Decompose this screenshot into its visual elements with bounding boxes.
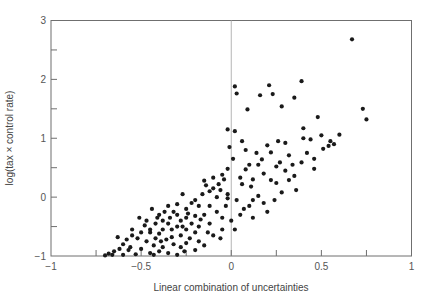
data-point [215,195,219,199]
data-point [144,239,148,243]
data-point [144,219,148,223]
y-tick-label: 2 [40,74,46,85]
data-point [328,139,332,143]
data-point [364,117,368,121]
data-point [299,79,303,83]
data-point [153,236,157,240]
data-point [218,236,222,240]
data-point [242,207,246,211]
data-point [161,245,165,249]
y-tick-label: 0 [40,192,46,203]
data-point [197,239,201,243]
data-point [262,171,266,175]
data-point [182,249,186,253]
data-point [235,198,239,202]
data-point [179,245,183,249]
data-point [292,174,296,178]
data-point [193,230,197,234]
data-point [269,178,273,182]
data-point [321,147,325,151]
data-point [350,37,354,41]
data-point [247,204,251,208]
y-tick-label: 3 [40,15,46,26]
data-point [175,224,179,228]
data-point [130,233,134,237]
data-point [121,242,125,246]
data-point [152,253,156,257]
data-point [233,227,237,231]
data-point [125,237,129,241]
scatter-chart: −1−0.500.51 −10123 Linear combination of… [0,0,431,302]
data-point [294,188,298,192]
data-point [208,204,212,208]
data-point [121,253,125,257]
data-point [166,204,170,208]
data-point [134,252,138,256]
data-point [184,227,188,231]
data-point [222,177,226,181]
data-point [312,157,316,161]
data-point [226,167,230,171]
data-point [175,213,179,217]
data-point [215,210,219,214]
data-point [164,237,168,241]
data-point [168,216,172,220]
data-point [202,213,206,217]
data-point [137,216,141,220]
data-point [197,204,201,208]
data-point [251,198,255,202]
data-point [269,150,273,154]
data-point [126,248,130,252]
data-point [217,182,221,186]
data-point [180,224,184,228]
data-point [283,169,287,173]
data-point [226,127,230,131]
data-point [161,227,165,231]
data-point [274,164,278,168]
data-point [262,201,266,205]
data-point [224,204,228,208]
x-axis-label: Linear combination of uncertainties [153,282,308,293]
data-point [184,241,188,245]
data-point [179,233,183,237]
data-point [326,144,330,148]
data-point [157,232,161,236]
data-point [227,145,231,149]
data-point [312,167,316,171]
data-point [199,217,203,221]
data-point [184,216,188,220]
data-point [278,160,282,164]
data-point [316,115,320,119]
y-tick-label: 1 [40,133,46,144]
data-point [251,216,255,220]
data-point [193,198,197,202]
data-point [271,92,275,96]
data-point [244,148,248,152]
data-point [245,107,249,111]
data-point [175,202,179,206]
data-point [202,243,206,247]
data-point [301,136,305,140]
data-point [107,252,111,256]
data-point [274,181,278,185]
data-point [135,236,139,240]
data-point [260,157,264,161]
x-tick-labels: −1−0.500.51 [45,261,414,272]
data-point [171,210,175,214]
data-point [166,251,170,255]
data-point [153,222,157,226]
data-point [238,176,242,180]
data-point [240,139,244,143]
data-point [240,182,244,186]
x-tick-label: 1 [409,261,415,272]
data-point [233,129,237,133]
data-points [103,37,369,257]
data-point [161,219,165,223]
data-point [139,230,143,234]
data-point [180,192,184,196]
data-point [206,230,210,234]
data-point [130,227,134,231]
x-tick-label: 0 [228,261,234,272]
data-point [220,173,224,177]
data-point [265,143,269,147]
